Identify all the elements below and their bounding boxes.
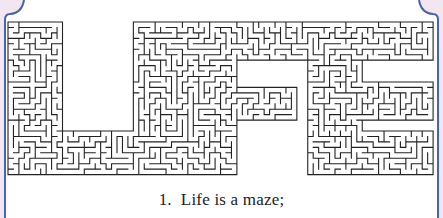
life-maze[interactable] (0, 0, 443, 218)
caption-text: Life is a maze; (181, 190, 285, 209)
maze-walls (8, 22, 433, 175)
caption-number: 1. (159, 190, 172, 209)
maze-caption: 1.Life is a maze; (0, 190, 443, 210)
